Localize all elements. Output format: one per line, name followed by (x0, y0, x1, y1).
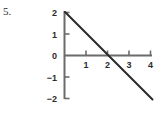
coordinate-plot: 2 1 0 −1 −2 1 2 3 4 (0, 0, 163, 116)
y-tick-label-1: 1 (52, 30, 57, 40)
figure-container: 5. 2 1 (0, 0, 163, 116)
x-tick-label-3: 3 (126, 60, 131, 70)
y-tick-label-2: 2 (52, 8, 57, 18)
x-tick-label-4: 4 (148, 60, 153, 70)
x-tick-label-1: 1 (83, 60, 88, 70)
plot-svg: 2 1 0 −1 −2 1 2 3 4 (0, 0, 163, 116)
y-tick-label-0: 0 (52, 51, 57, 61)
x-tick-label-2: 2 (105, 60, 110, 70)
y-tick-label-minus-2: −2 (47, 94, 57, 104)
y-tick-label-minus-1: −1 (47, 73, 57, 83)
